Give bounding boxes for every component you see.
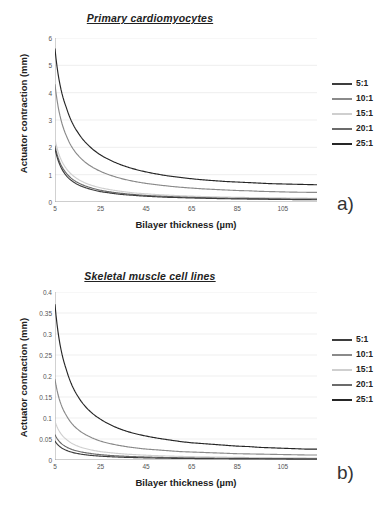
y-tick-label: 0	[6, 457, 52, 464]
y-tick-label: 3	[6, 117, 52, 124]
y-tick-label: 0.4	[6, 289, 52, 296]
legend-item-5-1: 5:1	[332, 332, 373, 347]
x-tick-label: 65	[188, 205, 195, 212]
x-tick-label: 5	[53, 205, 57, 212]
y-tick-label: 2	[6, 144, 52, 151]
y-tick-label: 0.25	[6, 352, 52, 359]
plot-wrapper-b: Actuator contraction (mm) 00.050.10.150.…	[0, 262, 387, 524]
x-tick-label: 45	[143, 463, 150, 470]
series-line-10-1	[55, 84, 317, 192]
y-axis-ticks-b: 00.050.10.150.20.250.30.350.4	[0, 262, 52, 524]
legend-label: 20:1	[356, 380, 373, 389]
plot-area-b	[55, 292, 317, 460]
series-line-25-1	[55, 49, 317, 185]
legend-item-10-1: 10:1	[332, 347, 373, 362]
panel-label-b: b)	[337, 462, 354, 484]
legend-item-25-1: 25:1	[332, 136, 373, 151]
y-tick-label: 4	[6, 89, 52, 96]
y-tick-label: 0.1	[6, 415, 52, 422]
x-axis-label-b: Bilayer thickness (µm)	[52, 477, 320, 488]
legend-label: 15:1	[356, 365, 373, 374]
x-tick-label: 25	[97, 463, 104, 470]
legend-swatch-icon	[332, 354, 352, 356]
x-tick-label: 85	[234, 463, 241, 470]
x-tick-label: 25	[97, 205, 104, 212]
panel-label-a: a)	[337, 193, 354, 215]
y-tick-label: 1	[6, 171, 52, 178]
chart-svg	[55, 292, 317, 460]
series-line-25-1	[55, 305, 317, 449]
legend-label: 5:1	[356, 79, 368, 88]
legend-label: 15:1	[356, 109, 373, 118]
series-line-15-1	[55, 421, 317, 458]
x-axis-ticks-b: 525456585105	[55, 463, 317, 475]
legend-label: 20:1	[356, 124, 373, 133]
legend-label: 25:1	[356, 395, 373, 404]
y-tick-label: 6	[6, 35, 52, 42]
figure-panel-a: Primary cardiomyocytes Actuator contract…	[0, 0, 387, 262]
figure-panel-b: Skeletal muscle cell lines Actuator cont…	[0, 262, 387, 524]
x-tick-label: 85	[234, 205, 241, 212]
legend-swatch-icon	[332, 128, 352, 130]
legend-swatch-icon	[332, 369, 352, 371]
y-tick-label: 5	[6, 62, 52, 69]
legend-item-15-1: 15:1	[332, 106, 373, 121]
x-axis-label-a: Bilayer thickness (µm)	[52, 219, 320, 230]
x-tick-label: 5	[53, 463, 57, 470]
x-tick-label: 65	[188, 463, 195, 470]
legend-swatch-icon	[332, 339, 352, 341]
plot-wrapper-a: Actuator contraction (mm) 0123456 525456…	[0, 0, 387, 262]
series-line-20-1	[55, 146, 317, 199]
legend-item-20-1: 20:1	[332, 377, 373, 392]
y-tick-label: 0.3	[6, 331, 52, 338]
legend-item-15-1: 15:1	[332, 362, 373, 377]
legend-swatch-icon	[332, 113, 352, 115]
legend-swatch-icon	[332, 399, 352, 401]
legend-item-5-1: 5:1	[332, 76, 373, 91]
x-tick-label: 105	[277, 463, 288, 470]
y-tick-label: 0.15	[6, 394, 52, 401]
legend-label: 10:1	[356, 94, 373, 103]
y-tick-label: 0.2	[6, 373, 52, 380]
legend-label: 10:1	[356, 350, 373, 359]
y-tick-label: 0	[6, 199, 52, 206]
legend-a: 5:110:115:120:125:1	[332, 76, 373, 151]
y-axis-ticks-a: 0123456	[0, 0, 52, 262]
legend-b: 5:110:115:120:125:1	[332, 332, 373, 407]
legend-label: 5:1	[356, 335, 368, 344]
chart-svg	[55, 38, 317, 202]
legend-swatch-icon	[332, 143, 352, 145]
legend-swatch-icon	[332, 98, 352, 100]
legend-swatch-icon	[332, 83, 352, 85]
legend-item-20-1: 20:1	[332, 121, 373, 136]
y-tick-label: 0.35	[6, 310, 52, 317]
x-axis-ticks-a: 525456585105	[55, 205, 317, 217]
plot-area-a	[55, 38, 317, 202]
legend-label: 25:1	[356, 139, 373, 148]
legend-item-10-1: 10:1	[332, 91, 373, 106]
x-tick-label: 45	[143, 205, 150, 212]
x-tick-label: 105	[277, 205, 288, 212]
y-tick-label: 0.05	[6, 436, 52, 443]
legend-swatch-icon	[332, 384, 352, 386]
series-line-10-1	[55, 379, 317, 455]
legend-item-25-1: 25:1	[332, 392, 373, 407]
